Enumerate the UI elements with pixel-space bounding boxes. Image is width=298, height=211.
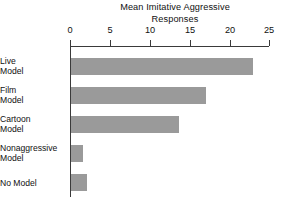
category-label-line: No Model xyxy=(0,178,66,188)
category-label-film-model: Film Model xyxy=(0,85,66,106)
category-label-line: Model xyxy=(0,153,72,163)
category-label-line: Model xyxy=(0,95,66,105)
x-tick-label-5: 5 xyxy=(107,24,112,36)
bar-cartoon-model xyxy=(71,116,179,133)
bar-row: Film Model xyxy=(0,87,298,104)
x-tick-label-20: 20 xyxy=(225,24,235,36)
x-tick-label-0: 0 xyxy=(67,24,72,36)
category-label-line: Nonaggressive xyxy=(0,143,72,153)
bar-no-model xyxy=(71,174,87,191)
category-label-nonaggressive-model: Nonaggressive Model xyxy=(0,143,72,164)
category-label-line: Film xyxy=(0,85,66,95)
category-label-no-model: No Model xyxy=(0,178,66,188)
x-axis-tick-labels: 0 5 10 15 20 25 xyxy=(0,24,298,38)
bar-row: Live Model xyxy=(0,58,298,75)
x-tick-label-10: 10 xyxy=(145,24,155,36)
category-label-line: Cartoon xyxy=(0,114,66,124)
bar-row: Nonaggressive Model xyxy=(0,145,298,162)
bar-row: Cartoon Model xyxy=(0,116,298,133)
category-label-line: Live xyxy=(0,56,66,66)
x-tick-label-25: 25 xyxy=(264,24,274,36)
category-label-line: Model xyxy=(0,66,66,76)
bar-chart: Mean Imitative Aggressive Responses 0 5 … xyxy=(0,0,298,211)
bar-film-model xyxy=(71,87,206,104)
chart-title-line-1: Mean Imitative Aggressive xyxy=(60,2,290,14)
chart-title: Mean Imitative Aggressive Responses xyxy=(60,2,290,25)
plot-area: Live Model Film Model Cartoon Model Nona… xyxy=(0,46,298,197)
category-label-line: Model xyxy=(0,124,66,134)
bar-row: No Model xyxy=(0,174,298,191)
category-label-live-model: Live Model xyxy=(0,56,66,77)
bar-live-model xyxy=(71,58,253,75)
category-label-cartoon-model: Cartoon Model xyxy=(0,114,66,135)
bar-nonaggressive-model xyxy=(71,145,83,162)
x-tick-label-15: 15 xyxy=(185,24,195,36)
